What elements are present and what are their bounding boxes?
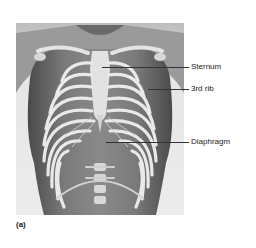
rib-cage-drawing [16,23,184,215]
thorax-illustration [16,23,184,215]
panel-letter: (a) [16,220,26,229]
sternum-label: Sternum [191,63,221,71]
third-rib-leader-line [148,89,189,90]
diaphragm-label: Diaphragm [191,138,230,146]
third-rib-label: 3rd rib [191,85,214,93]
diaphragm-leader-line [106,142,189,143]
sternum-leader-line [102,67,189,68]
